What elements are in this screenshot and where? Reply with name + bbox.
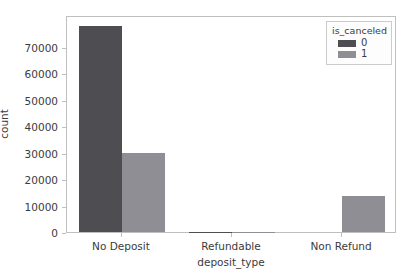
y-tick-label: 30000 [25,148,58,160]
x-tick-mark [231,233,232,237]
legend-label: 1 [361,49,367,59]
bar [122,153,165,232]
bar [342,196,385,232]
legend-item: 1 [338,49,386,59]
y-tick-label: 50000 [25,95,58,107]
y-tick-mark [62,233,66,234]
y-tick-label: 40000 [25,121,58,133]
x-axis-label: deposit_type [197,256,264,268]
chart-figure: count 0100002000030000400005000060000700… [0,0,409,279]
x-tick-mark [121,233,122,237]
y-tick-label: 70000 [25,42,58,54]
bar [79,26,122,232]
legend-swatch [338,40,356,47]
legend: is_canceled 01 [326,21,392,65]
legend-title: is_canceled [332,25,386,36]
x-tick-label: No Deposit [92,240,150,252]
y-tick-label: 20000 [25,174,58,186]
legend-entries: 01 [332,38,386,59]
y-tick-label: 10000 [25,201,58,213]
x-tick-label: Non Refund [310,240,371,252]
y-tick-label: 60000 [25,68,58,80]
y-axis-label: count [0,109,10,139]
x-tick-mark [341,233,342,237]
x-tick-label: Refundable [201,240,260,252]
legend-label: 0 [361,38,367,48]
legend-item: 0 [338,38,386,48]
y-tick-label: 0 [51,227,58,239]
legend-swatch [338,51,356,58]
